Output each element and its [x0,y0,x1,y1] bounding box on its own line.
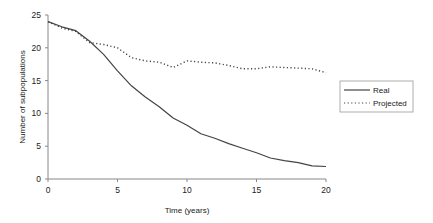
x-tick-label: 20 [321,185,331,195]
series-line-real [48,22,326,167]
y-tick-label: 20 [32,43,42,53]
x-tick-label: 10 [182,185,192,195]
x-tick-label: 0 [46,185,51,195]
y-tick-label: 15 [32,76,42,86]
legend-label-projected: Projected [373,99,407,108]
y-axis-title: Number of subpopulations [18,50,27,143]
x-tick-label: 5 [115,185,120,195]
x-axis-title: Time (years) [165,206,210,215]
y-tick-label: 25 [32,10,42,20]
line-chart: 051015202505101520Time (years)Number of … [0,0,433,223]
x-tick-label: 15 [252,185,262,195]
y-tick-label: 10 [32,108,42,118]
y-tick-label: 5 [36,141,41,151]
legend-label-real: Real [373,86,390,95]
series-line-projected [48,22,326,73]
y-tick-label: 0 [36,174,41,184]
